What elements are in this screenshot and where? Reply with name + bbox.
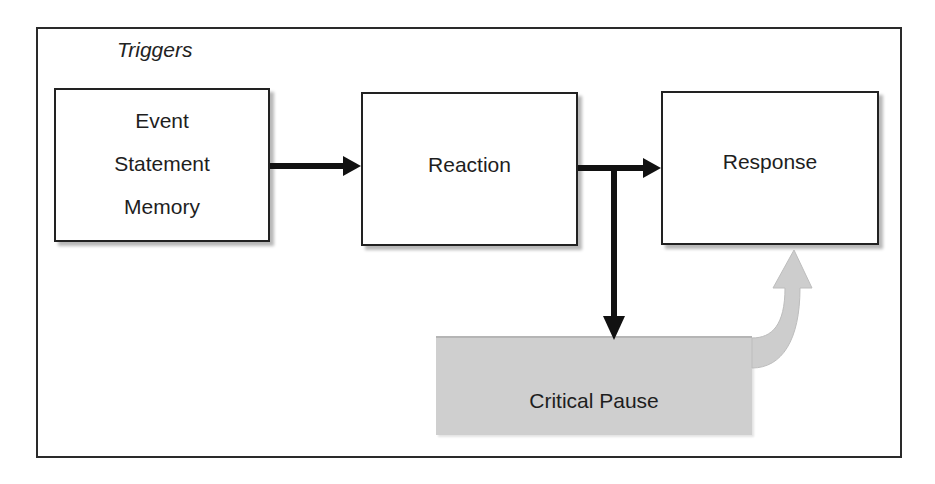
response-box: Response (661, 91, 879, 245)
critical-pause-box: Critical Pause (436, 336, 752, 435)
trigger-statement-label: Statement (114, 153, 210, 174)
reaction-box: Reaction (361, 92, 578, 246)
trigger-memory-label: Memory (124, 196, 200, 217)
response-label: Response (723, 151, 818, 172)
triggers-box: Event Statement Memory (54, 88, 270, 242)
reaction-label: Reaction (428, 154, 511, 175)
critical-pause-label: Critical Pause (529, 389, 659, 413)
trigger-event-label: Event (135, 110, 189, 131)
diagram-title: Triggers (117, 38, 192, 62)
